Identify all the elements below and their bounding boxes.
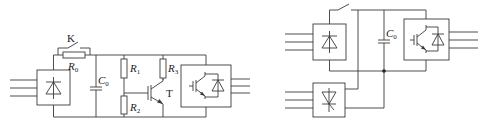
right-thyristor-rectifier-box [313, 83, 345, 117]
right-three-phase-output [449, 32, 478, 48]
switch-k-label: K [67, 32, 75, 44]
r1-label: R1 [129, 62, 141, 76]
right-inverter-box [404, 19, 449, 60]
right-lower-three-phase-input [285, 92, 313, 108]
left-inverter-box [181, 65, 231, 107]
circuit-diagram: K R0 C0 R1 R2 [0, 0, 486, 129]
junction-node [382, 69, 386, 73]
right-circuit: C0 [285, 4, 478, 117]
precharge-resistor-r0 [58, 52, 90, 58]
right-dc-link-capacitor-c0 [378, 10, 390, 108]
right-c0-label: C0 [386, 27, 397, 41]
resistor-r2 [121, 93, 127, 117]
r2-label: R2 [129, 101, 141, 115]
left-three-phase-input [10, 80, 37, 96]
c0-label: C0 [98, 74, 109, 88]
dc-link-capacitor-c0 [90, 55, 102, 117]
r0-label: R0 [67, 60, 79, 74]
transistor-t [146, 79, 163, 117]
right-diode-rectifier-box [313, 24, 346, 60]
resistor-r1 [121, 55, 127, 93]
left-three-phase-output [231, 79, 250, 93]
right-upper-three-phase-input [285, 34, 313, 50]
left-circuit: K R0 C0 R1 R2 [10, 32, 250, 117]
transistor-t-label: T [166, 87, 173, 99]
r3-label: R3 [167, 62, 179, 76]
left-rectifier-box [37, 70, 70, 105]
resistor-r3 [160, 55, 166, 80]
